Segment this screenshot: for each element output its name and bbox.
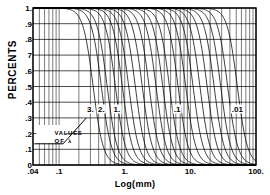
curve-label-2: 2. — [97, 105, 106, 114]
curve-label-01: .01 — [231, 105, 244, 114]
x-axis-title: Log(mm) — [0, 179, 270, 189]
chart-root: 1..9.87.6.5.4.3.2.10 .04.11.10.100. PERC… — [0, 0, 270, 195]
values-of-lambda-annotation: VALUES OF λ — [54, 129, 82, 145]
y-axis-tick-label: .1 — [10, 145, 32, 154]
chart-plot-area — [0, 0, 270, 195]
x-axis-tick-label: 100. — [248, 167, 264, 176]
y-axis-tick-label: .3 — [10, 114, 32, 123]
x-axis-tick-label: 1. — [121, 167, 128, 176]
curve-label-3: 3. — [86, 105, 95, 114]
x-axis-tick-label: .1 — [56, 167, 63, 176]
y-axis-tick-label: 1. — [10, 4, 32, 13]
y-axis-tick-label: .9 — [10, 20, 32, 29]
curve-label-1: 1. — [113, 105, 122, 114]
y-axis-tick-label: .2 — [10, 130, 32, 139]
y-axis-title: PERCENTS — [7, 30, 18, 110]
x-axis-tick-label: 10. — [185, 167, 196, 176]
annotation-line-1: VALUES — [54, 129, 82, 137]
curve-label-1: .1 — [173, 105, 182, 114]
annotation-line-2: OF λ — [54, 137, 82, 145]
x-axis-tick-label: .04 — [27, 167, 38, 176]
